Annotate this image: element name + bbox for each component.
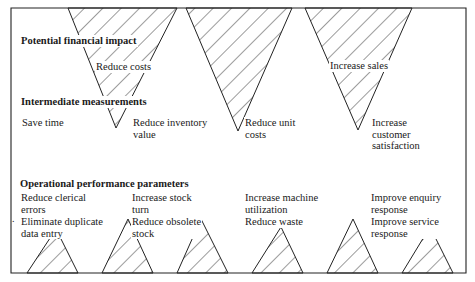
inverted-triangle-2 <box>186 8 292 131</box>
label-reduce-obsolete-stock: Reduce obsolete stock <box>131 216 202 239</box>
label-reduce-costs: Reduce costs <box>95 61 152 73</box>
section-intermediate-measurements: Intermediate measurements <box>20 96 147 108</box>
upright-triangle-4 <box>252 227 303 273</box>
label-increase-stock-turn: Increase stock turn <box>131 192 193 215</box>
label-eliminate-duplicate-data-entry: Eliminate duplicate data entry <box>20 216 104 239</box>
label-save-time: Save time <box>21 117 65 129</box>
label-improve-service-response: Improve service response <box>370 216 440 239</box>
stray-mark: . <box>12 213 15 224</box>
label-reduce-unit-costs: Reduce unit costs <box>244 117 296 140</box>
label-reduce-waste: Reduce waste <box>244 216 304 228</box>
label-increase-customer-satisfaction: Increase customer satisfaction <box>371 117 421 152</box>
label-increase-sales: Increase sales <box>329 60 389 72</box>
label-reduce-clerical-errors: Reduce clerical errors <box>20 192 87 215</box>
section-financial-impact: Potential financial impact <box>20 35 138 47</box>
label-improve-enquiry-response: Improve enquiry response <box>370 192 442 215</box>
section-operational-parameters: Operational performance parameters <box>19 178 190 190</box>
label-reduce-inventory-value: Reduce inventory value <box>132 117 208 140</box>
label-increase-machine-utilization: Increase machine utilization <box>244 192 319 215</box>
